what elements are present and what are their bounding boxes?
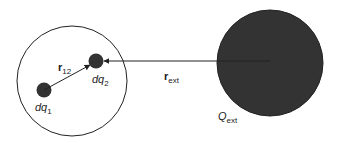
label-dq1: dq1 (35, 102, 52, 113)
label-dq1-sub: 1 (47, 107, 51, 116)
label-q-ext-sub: ext (227, 116, 238, 125)
label-q-ext: Qext (218, 111, 237, 122)
label-r-ext-sub: ext (168, 76, 179, 85)
label-r12: r12 (58, 62, 71, 73)
label-q-ext-main: Q (218, 110, 227, 122)
label-dq2-main: dq (92, 73, 104, 85)
region-boundary-circle (17, 26, 127, 136)
label-r-ext: rext (164, 71, 179, 82)
charge-dq2 (89, 54, 104, 69)
label-dq2-sub: 2 (104, 79, 108, 88)
label-dq1-main: dq (35, 101, 47, 113)
label-dq2: dq2 (92, 74, 109, 85)
label-r12-sub: 12 (62, 67, 71, 76)
external-charge-sphere (217, 10, 323, 116)
diagram-canvas: r12 dq2 dq1 rext Qext (0, 0, 338, 143)
